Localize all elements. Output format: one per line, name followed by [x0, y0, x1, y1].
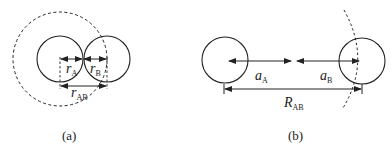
panel-b: aA aB RAB (b): [202, 10, 385, 143]
label-aa: aA: [255, 68, 268, 85]
label-ab: aB: [320, 68, 332, 85]
dashed-arc: [343, 10, 358, 108]
panel-a: rA rB rAB (a): [13, 12, 130, 143]
diagram-canvas: rA rB rAB (a) aA aB RAB (b): [0, 0, 391, 153]
label-rb: rB: [90, 61, 101, 78]
caption-b: (b): [288, 128, 303, 143]
atom-a-circle: [202, 37, 248, 83]
label-rab: RAB: [283, 95, 304, 112]
label-rab: rAB: [71, 85, 88, 102]
caption-a: (a): [62, 128, 76, 143]
label-ra: rA: [66, 61, 77, 78]
